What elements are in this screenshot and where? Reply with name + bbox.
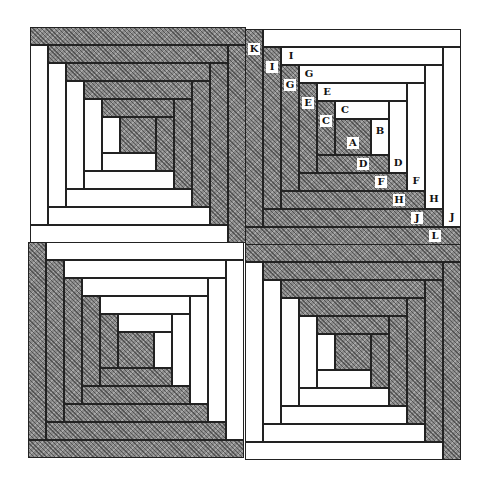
piece-label: H	[393, 194, 405, 206]
strip-b-right	[102, 117, 120, 153]
strip-i-top	[48, 207, 210, 225]
strip-f-bottom	[299, 173, 407, 191]
strip-b-right	[317, 334, 335, 370]
strip-h-right	[208, 278, 226, 422]
strip-d-right	[84, 99, 102, 171]
block-bottom-left	[28, 242, 244, 458]
strip-l-bottom	[30, 27, 246, 45]
strip-j-right	[443, 47, 461, 227]
piece-label: E	[321, 86, 333, 98]
strip-i-top	[64, 260, 226, 278]
strip-g-top	[299, 65, 425, 83]
strip-e-top	[100, 296, 190, 314]
strip-k-left	[228, 45, 246, 243]
strip-e-top	[84, 171, 174, 189]
strip-g-left	[64, 278, 82, 404]
strip-h-right	[425, 65, 443, 209]
strip-h-bottom	[66, 63, 210, 81]
strip-g-left	[407, 298, 425, 424]
strip-e-left	[174, 99, 192, 189]
piece-label: C	[339, 104, 351, 116]
strip-h-bottom	[281, 280, 425, 298]
piece-label: F	[375, 176, 387, 188]
piece-label: J	[446, 211, 458, 223]
strip-i-left	[46, 260, 64, 422]
strip-h-right	[263, 280, 281, 424]
center-square	[118, 332, 154, 368]
piece-label: F	[410, 175, 422, 187]
strip-d-bottom	[102, 99, 174, 117]
strip-k-left	[245, 29, 263, 227]
strip-i-left	[210, 63, 228, 225]
strip-c-left	[156, 117, 174, 171]
strip-c-top	[118, 314, 172, 332]
strip-b-right	[154, 332, 172, 368]
strip-j-right	[226, 260, 244, 440]
strip-i-top	[263, 424, 425, 442]
strip-f-bottom	[82, 386, 190, 404]
piece-label: D	[357, 158, 369, 170]
strip-e-left	[82, 296, 100, 386]
strip-f-right	[66, 81, 84, 189]
strip-d-bottom	[100, 368, 172, 386]
piece-label: H	[428, 193, 440, 205]
strip-c-top	[317, 370, 371, 388]
block-top-left	[30, 27, 246, 243]
piece-label: D	[392, 157, 404, 169]
strip-d-bottom	[317, 316, 389, 334]
strip-g-left	[192, 81, 210, 207]
center-square	[335, 334, 371, 370]
log-cabin-quilt-diagram: ABCCDDEEFFGGHHIIJJKL	[0, 0, 484, 479]
strip-c-left	[100, 314, 118, 368]
piece-label: A	[347, 137, 359, 149]
strip-g-top	[281, 406, 407, 424]
strip-f-right	[281, 298, 299, 406]
strip-c-top	[102, 153, 156, 171]
strip-unlabeled-top	[30, 225, 228, 243]
strip-l-bottom	[28, 440, 244, 458]
strip-d-bottom	[317, 155, 389, 173]
piece-label: L	[429, 230, 441, 242]
strip-f-bottom	[299, 298, 407, 316]
strip-k-left	[28, 242, 46, 440]
strip-k-left	[443, 262, 461, 460]
strip-l-bottom	[245, 244, 461, 262]
piece-label: J	[411, 212, 423, 224]
block-top-right: ABCCDDEEFFGGHHIIJJKL	[245, 29, 461, 245]
piece-label: K	[248, 43, 260, 55]
strip-j-bottom	[48, 45, 228, 63]
piece-label: I	[285, 50, 297, 62]
strip-j-right	[245, 262, 263, 442]
strip-h-bottom	[64, 404, 208, 422]
piece-label: I	[266, 61, 278, 73]
strip-f-right	[190, 296, 208, 404]
piece-label: E	[302, 97, 314, 109]
strip-d-right	[172, 314, 190, 386]
piece-label: G	[303, 68, 315, 80]
center-square	[120, 117, 156, 153]
piece-label: C	[320, 115, 332, 127]
strip-c-left	[317, 101, 335, 155]
strip-f-bottom	[84, 81, 192, 99]
strip-j-bottom	[46, 422, 226, 440]
strip-c-left	[371, 334, 389, 388]
strip-g-top	[66, 189, 192, 207]
strip-j-bottom	[263, 262, 443, 280]
strip-unlabeled-top	[263, 29, 461, 47]
strip-unlabeled-top	[245, 442, 443, 460]
strip-i-top	[281, 47, 443, 65]
strip-j-right	[30, 45, 48, 225]
strip-g-top	[82, 278, 208, 296]
strip-unlabeled-top	[46, 242, 244, 260]
strip-e-top	[299, 388, 389, 406]
strip-e-left	[389, 316, 407, 406]
strip-h-right	[48, 63, 66, 207]
strip-i-left	[425, 280, 443, 442]
piece-label: B	[374, 125, 386, 137]
strip-d-right	[299, 316, 317, 388]
block-bottom-right	[245, 244, 461, 460]
piece-label: G	[284, 79, 296, 91]
